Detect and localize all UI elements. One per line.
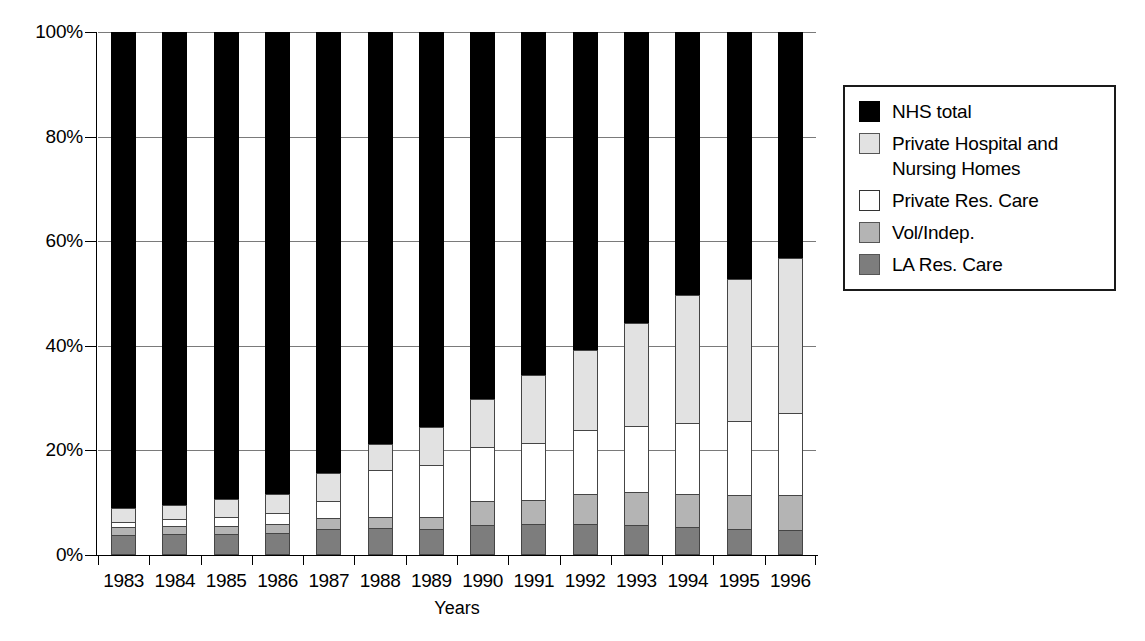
bar-segment-privhosp: [675, 295, 700, 423]
bar-segment-vol: [727, 495, 752, 529]
bar-segment-vol: [624, 492, 649, 525]
y-axis-tick-label: 0%: [5, 545, 83, 564]
bar-slot: [508, 32, 559, 555]
bar-segment-la: [624, 525, 649, 555]
bar-segment-privres: [573, 430, 598, 494]
x-axis-tick-label: 1990: [457, 570, 508, 592]
x-axis-tick-mark: [457, 556, 508, 566]
plot-area: [98, 32, 816, 555]
bar-segment-privhosp: [214, 499, 239, 517]
legend-item-la[interactable]: LA Res. Care: [859, 252, 1104, 277]
bar-slot: [662, 32, 713, 555]
bar-segment-privhosp: [778, 258, 803, 413]
legend-item-nhs[interactable]: NHS total: [859, 99, 1104, 124]
bar-segment-privres: [624, 426, 649, 492]
x-axis-tick-label: 1989: [406, 570, 457, 592]
bar-segment-la: [162, 534, 187, 555]
bar-segment-vol: [214, 526, 239, 534]
legend-item-vol[interactable]: Vol/Indep.: [859, 220, 1104, 245]
legend-label: LA Res. Care: [892, 252, 1003, 277]
x-axis-tick-mark: [713, 556, 764, 566]
bar-segment-la: [368, 528, 393, 555]
x-axis-tick-mark: [98, 556, 149, 566]
bar-segment-vol: [573, 494, 598, 523]
bar-segment-vol: [675, 494, 700, 527]
bar-segment-privres: [368, 470, 393, 517]
bar-segment-privres: [778, 413, 803, 495]
bar-segment-vol: [470, 501, 495, 525]
x-axis-labels: 1983198419851986198719881989199019911992…: [98, 570, 816, 592]
bar-segment-nhs: [265, 32, 290, 494]
bar-segment-la: [778, 530, 803, 555]
bar-segment-privres: [727, 421, 752, 496]
bar-segment-vol: [162, 526, 187, 534]
stacked-bar[interactable]: [624, 32, 649, 555]
bar-slot: [252, 32, 303, 555]
bar-segment-privres: [316, 501, 341, 518]
stacked-bar[interactable]: [778, 32, 803, 555]
bar-segment-privhosp: [727, 279, 752, 421]
stacked-bar[interactable]: [162, 32, 187, 555]
stacked-bar[interactable]: [521, 32, 546, 555]
y-axis-tick-label: 40%: [5, 336, 83, 355]
bar-segment-nhs: [316, 32, 341, 473]
bar-segment-nhs: [111, 32, 136, 508]
x-axis-tick-label: 1994: [662, 570, 713, 592]
bar-segment-privres: [675, 423, 700, 494]
bar-slot: [713, 32, 764, 555]
stacked-bar[interactable]: [111, 32, 136, 555]
bar-slot: [303, 32, 354, 555]
stacked-bar[interactable]: [727, 32, 752, 555]
bar-slot: [149, 32, 200, 555]
x-axis-tick-label: 1991: [508, 570, 559, 592]
stacked-bar[interactable]: [316, 32, 341, 555]
x-axis-tick-label: 1986: [252, 570, 303, 592]
bar-segment-nhs: [521, 32, 546, 375]
x-axis-tick-label: 1992: [560, 570, 611, 592]
bar-segment-privhosp: [316, 473, 341, 501]
y-axis-tick-label: 100%: [5, 22, 83, 41]
y-axis-labels: 100%80%60%40%20%0%: [0, 0, 83, 641]
bar-slot: [560, 32, 611, 555]
bar-segment-nhs: [470, 32, 495, 399]
legend-item-privres[interactable]: Private Res. Care: [859, 188, 1104, 213]
bar-segment-vol: [521, 500, 546, 524]
legend-item-privhosp[interactable]: Private Hospital and Nursing Homes: [859, 131, 1104, 181]
stacked-bar[interactable]: [470, 32, 495, 555]
bar-segment-vol: [778, 495, 803, 530]
stacked-bar[interactable]: [573, 32, 598, 555]
bar-segment-privres: [265, 513, 290, 524]
bar-segment-vol: [111, 527, 136, 535]
bar-slot: [765, 32, 816, 555]
x-axis-tick-mark: [560, 556, 611, 566]
legend-swatch-vol-icon: [859, 222, 880, 243]
bar-segment-vol: [368, 517, 393, 528]
bar-segment-privres: [162, 519, 187, 526]
stacked-bar[interactable]: [419, 32, 444, 555]
x-axis-tick-mark: [662, 556, 713, 566]
x-axis-tick-label: 1995: [713, 570, 764, 592]
bar-segment-vol: [316, 518, 341, 528]
legend-label: Vol/Indep.: [892, 220, 975, 245]
bar-segment-privhosp: [573, 350, 598, 430]
bar-segment-la: [521, 524, 546, 555]
bar-group: [98, 32, 816, 555]
bar-segment-la: [265, 533, 290, 555]
y-axis-tick-label: 60%: [5, 231, 83, 250]
bar-slot: [406, 32, 457, 555]
y-axis-line: [96, 32, 97, 556]
legend-swatch-la-icon: [859, 254, 880, 275]
x-axis-tick-mark: [149, 556, 200, 566]
bar-segment-la: [727, 529, 752, 555]
x-axis-tick-label: 1987: [303, 570, 354, 592]
stacked-bar[interactable]: [265, 32, 290, 555]
legend-label: Private Hospital and Nursing Homes: [892, 131, 1058, 181]
bar-segment-vol: [265, 524, 290, 533]
bar-segment-nhs: [214, 32, 239, 499]
stacked-bar[interactable]: [214, 32, 239, 555]
bar-segment-privhosp: [419, 427, 444, 465]
stacked-bar[interactable]: [675, 32, 700, 555]
legend-label: Private Res. Care: [892, 188, 1039, 213]
stacked-bar[interactable]: [368, 32, 393, 555]
x-axis-title: Years: [98, 598, 816, 618]
